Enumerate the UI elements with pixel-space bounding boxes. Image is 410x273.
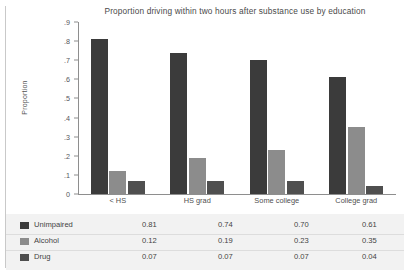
y-tick-label: 0 xyxy=(66,190,70,199)
legend-label: Drug xyxy=(34,252,50,261)
table-cell: 0.23 xyxy=(294,236,309,245)
bar-group xyxy=(250,22,304,194)
table-cell: 0.12 xyxy=(142,236,157,245)
x-tick-label: < HS xyxy=(109,196,126,205)
y-axis-label: Proportion xyxy=(21,68,28,128)
y-tick-label: .9 xyxy=(64,18,70,27)
x-tick-label: HS grad xyxy=(184,196,211,205)
y-tick-label: .6 xyxy=(64,75,70,84)
table-row: Drug0.070.070.070.04 xyxy=(6,250,404,266)
table-cell: 0.35 xyxy=(362,236,377,245)
bar xyxy=(109,171,126,194)
data-table: Unimpaired0.810.740.700.61Alcohol0.120.1… xyxy=(6,214,404,270)
bar xyxy=(207,181,224,194)
legend-swatch xyxy=(20,254,29,261)
chart-figure: Proportion driving within two hours afte… xyxy=(0,0,410,273)
plot-area: Proportion 0.1.2.3.4.5.6.7.8.9 < HSHS gr… xyxy=(0,22,410,212)
y-tick-label: .8 xyxy=(64,37,70,46)
bar xyxy=(189,158,206,194)
y-tick-label: .7 xyxy=(64,56,70,65)
y-tick-label: .3 xyxy=(64,132,70,141)
x-axis-line xyxy=(78,194,396,195)
table-cell: 0.19 xyxy=(218,236,233,245)
x-tick-label: College grad xyxy=(335,196,377,205)
table-cell: 0.70 xyxy=(294,220,309,229)
bar xyxy=(91,39,108,194)
table-row: Alcohol0.120.190.230.35 xyxy=(6,234,404,250)
bar-group xyxy=(329,22,383,194)
bar xyxy=(366,186,383,194)
bar-group xyxy=(91,22,145,194)
y-tick-label: .5 xyxy=(64,94,70,103)
chart-title: Proportion driving within two hours afte… xyxy=(70,6,400,16)
x-tick-label: Some college xyxy=(254,196,299,205)
bar-group xyxy=(170,22,224,194)
table-cell: 0.04 xyxy=(362,252,377,261)
bar xyxy=(128,181,145,194)
table-row: Unimpaired0.810.740.700.61 xyxy=(6,218,404,234)
bar xyxy=(348,127,365,194)
bar xyxy=(287,181,304,194)
legend-label: Unimpaired xyxy=(34,220,73,229)
legend-swatch xyxy=(20,238,29,245)
table-cell: 0.81 xyxy=(142,220,157,229)
table-cell: 0.07 xyxy=(294,252,309,261)
bar xyxy=(170,53,187,194)
table-cell: 0.61 xyxy=(362,220,377,229)
x-axis-labels: < HSHS gradSome collegeCollege grad xyxy=(78,196,396,212)
bar xyxy=(250,60,267,194)
table-cell: 0.74 xyxy=(218,220,233,229)
y-axis-ticks: 0.1.2.3.4.5.6.7.8.9 xyxy=(52,22,74,194)
bars-layer xyxy=(78,22,396,194)
y-tick-label: .1 xyxy=(64,170,70,179)
legend-swatch xyxy=(20,222,29,229)
legend-label: Alcohol xyxy=(34,236,59,245)
bar xyxy=(268,150,285,194)
bar xyxy=(329,77,346,194)
y-tick-label: .4 xyxy=(64,113,70,122)
table-cell: 0.07 xyxy=(142,252,157,261)
table-cell: 0.07 xyxy=(218,252,233,261)
y-tick-label: .2 xyxy=(64,151,70,160)
